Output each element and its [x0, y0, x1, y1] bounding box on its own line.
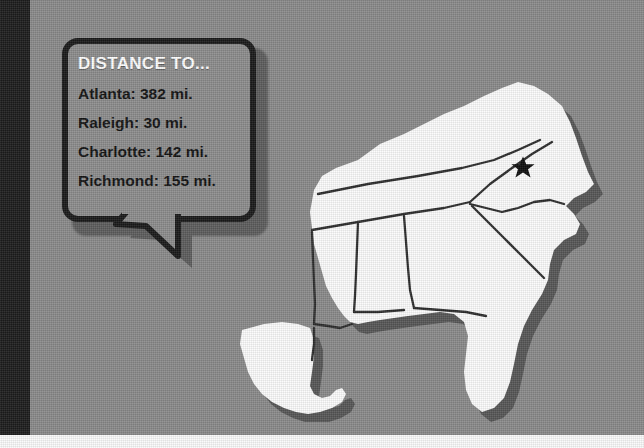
left-dark-band	[0, 0, 30, 435]
callout-tail	[104, 210, 224, 272]
southeast-us-map[interactable]	[218, 72, 608, 422]
distance-row-charlotte: Charlotte: 142 mi.	[78, 137, 250, 166]
bottom-white-strip	[0, 435, 644, 448]
distance-row-richmond: Richmond: 155 mi.	[78, 166, 250, 195]
map-land	[240, 82, 594, 414]
distance-callout[interactable]: DISTANCE TO... Atlanta: 382 mi. Raleigh:…	[62, 38, 256, 222]
distance-row-atlanta: Atlanta: 382 mi.	[78, 79, 250, 108]
screenshot-canvas: DISTANCE TO... Atlanta: 382 mi. Raleigh:…	[0, 0, 644, 448]
distance-row-raleigh: Raleigh: 30 mi.	[78, 108, 250, 137]
callout-title: DISTANCE TO...	[78, 53, 250, 75]
